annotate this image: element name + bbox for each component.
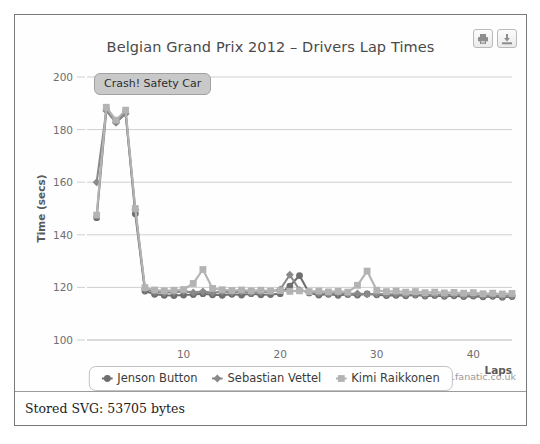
data-point xyxy=(161,287,168,294)
data-point xyxy=(344,289,351,296)
x-axis-tick-labels: 10203040 xyxy=(177,348,480,360)
data-point xyxy=(306,288,313,295)
data-point xyxy=(363,290,371,298)
y-tick-200: 200 xyxy=(53,71,73,83)
data-point xyxy=(315,288,322,295)
data-point xyxy=(190,280,197,287)
data-point xyxy=(151,287,158,294)
data-point xyxy=(209,285,216,292)
data-point xyxy=(103,104,110,111)
data-point xyxy=(402,289,409,296)
legend-label: Jenson Button xyxy=(117,371,197,385)
printer-icon xyxy=(477,33,489,45)
data-point xyxy=(364,268,371,275)
data-point xyxy=(460,290,467,297)
series-line xyxy=(97,107,512,294)
series-line xyxy=(97,111,512,296)
legend-item-kimi-raikkonen[interactable]: Kimi Raikkonen xyxy=(335,371,439,385)
data-point xyxy=(286,288,293,295)
data-point xyxy=(93,212,100,219)
y-tick-100: 100 xyxy=(53,334,73,346)
data-point xyxy=(248,287,255,294)
lap-times-line-chart: 100120140160180200 10203040 Time (secs) … xyxy=(15,15,526,392)
data-point xyxy=(267,288,274,295)
download-button[interactable] xyxy=(497,29,517,48)
data-point xyxy=(325,288,332,295)
chart-legend: Jenson ButtonSebastian VettelKimi Raikko… xyxy=(88,366,452,391)
data-point xyxy=(113,117,120,124)
data-point xyxy=(335,288,342,295)
data-point xyxy=(441,290,448,297)
data-point xyxy=(451,289,458,296)
data-point xyxy=(296,272,303,279)
y-axis-tick-labels: 100120140160180200 xyxy=(53,71,73,346)
square-marker-icon xyxy=(335,373,346,384)
chart-toolbar xyxy=(473,29,517,48)
diamond-marker-icon xyxy=(212,373,223,384)
data-point xyxy=(509,290,516,297)
data-point xyxy=(219,286,226,293)
data-point xyxy=(180,286,187,293)
data-point xyxy=(257,287,264,294)
y-tick-140: 140 xyxy=(53,229,73,241)
data-point xyxy=(422,289,429,296)
data-point xyxy=(489,290,496,297)
data-point xyxy=(480,290,487,297)
data-point xyxy=(470,289,477,296)
circle-marker-icon xyxy=(101,373,112,384)
data-point xyxy=(296,287,303,294)
status-text: Stored SVG: 53705 bytes xyxy=(25,401,185,416)
status-bar: Stored SVG: 53705 bytes xyxy=(15,391,526,425)
print-button[interactable] xyxy=(473,29,493,48)
chart-window: Belgian Grand Prix 2012 – Drivers Lap Ti… xyxy=(14,14,527,426)
data-point xyxy=(171,287,178,294)
data-point xyxy=(228,287,235,294)
annotation-crash-safety-car: Crash! Safety Car xyxy=(94,73,211,95)
data-point xyxy=(132,205,139,212)
series-sebastian-vettel xyxy=(93,107,516,300)
data-point xyxy=(354,282,361,289)
chart-card: Belgian Grand Prix 2012 – Drivers Lap Ti… xyxy=(15,15,526,392)
data-point xyxy=(431,289,438,296)
series-kimi-raikkonen xyxy=(93,104,515,298)
y-tick-180: 180 xyxy=(53,124,73,136)
grid-lines xyxy=(77,77,512,340)
data-point xyxy=(122,107,129,114)
data-point xyxy=(412,288,419,295)
data-point xyxy=(238,287,245,294)
download-icon xyxy=(501,33,513,45)
data-point xyxy=(200,266,207,273)
x-tick-30: 30 xyxy=(370,348,383,360)
data-point xyxy=(277,287,284,294)
series-jenson-button xyxy=(93,106,515,300)
x-tick-40: 40 xyxy=(467,348,480,360)
y-axis-title: Time (secs) xyxy=(35,175,47,243)
legend-label: Kimi Raikkonen xyxy=(351,371,439,385)
legend-label: Sebastian Vettel xyxy=(228,371,322,385)
y-tick-160: 160 xyxy=(53,176,73,188)
data-point xyxy=(393,288,400,295)
data-point xyxy=(499,291,506,298)
plot-area: 100120140160180200 10203040 Time (secs) … xyxy=(15,15,526,392)
legend-item-sebastian-vettel[interactable]: Sebastian Vettel xyxy=(212,371,322,385)
data-point xyxy=(383,288,390,295)
data-point xyxy=(142,284,149,291)
data-series-group xyxy=(93,104,516,301)
y-tick-120: 120 xyxy=(53,281,73,293)
x-tick-20: 20 xyxy=(273,348,286,360)
series-line xyxy=(97,110,512,298)
legend-item-jenson-button[interactable]: Jenson Button xyxy=(101,371,197,385)
data-point xyxy=(373,287,380,294)
x-tick-10: 10 xyxy=(177,348,190,360)
